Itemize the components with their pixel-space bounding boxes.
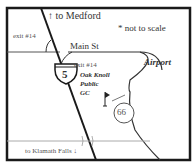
exit-ramp-left xyxy=(46,40,51,52)
golf-course-name-line3: GC xyxy=(80,90,90,97)
main-st-label: Main St xyxy=(70,42,99,51)
airport-label: Airport xyxy=(144,58,171,67)
exit-14-left-label: exit #14 xyxy=(13,33,36,40)
golf-access-road xyxy=(112,95,125,101)
to-klamath-falls-label: to Klamath Falls ↓ xyxy=(25,148,77,155)
to-medford-label: ↑ to Medford xyxy=(48,11,101,21)
highway-66-number: 66 xyxy=(117,108,126,117)
map: ↑ to Medford * not to scale exit #14 Mai… xyxy=(0,0,196,168)
highway-66-road xyxy=(129,52,160,160)
exit-14-right-label: exit #14 xyxy=(74,62,97,69)
interstate-5-number: 5 xyxy=(62,69,68,80)
golf-course-name-line2: Public xyxy=(80,81,99,88)
not-to-scale-note: * not to scale xyxy=(118,24,166,33)
exit-ramp-right xyxy=(61,52,72,64)
golf-course-name-line1: Oak Knoll xyxy=(80,72,110,79)
